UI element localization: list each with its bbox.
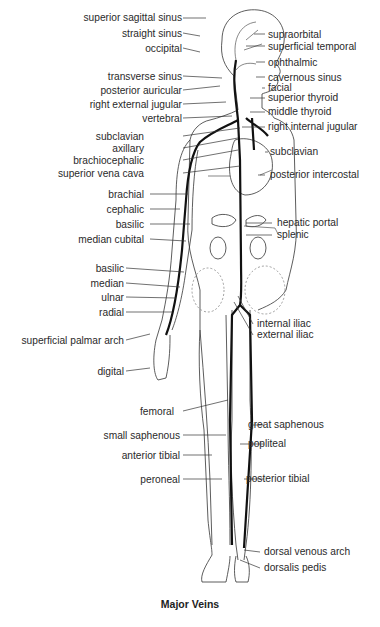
label-great-saphenous: great saphenous [248,419,324,430]
label-ulnar: ulnar [101,292,124,303]
label-cephalic: cephalic [107,204,144,215]
label-straight-sinus: straight sinus [122,28,182,39]
label-splenic: splenic [277,229,309,240]
label-basilic-lower: basilic [96,263,124,274]
label-median: median [91,278,124,289]
label-posterior-intercostal: posterior intercostal [270,169,359,180]
label-vertebral: vertebral [142,113,182,124]
label-superior-thyroid: superior thyroid [268,92,338,103]
major-veins-diagram: superior sagittal sinus straight sinus o… [0,0,380,627]
label-occipital: occipital [145,43,182,54]
label-right-internal-jugular: right internal jugular [268,121,357,132]
label-superior-vena-cava: superior vena cava [58,168,144,179]
label-dorsalis-pedis: dorsalis pedis [264,562,326,573]
label-median-cubital: median cubital [78,234,144,245]
label-right-external-jugular: right external jugular [90,99,182,110]
label-basilic-upper: basilic [116,219,144,230]
label-brachiocephalic: brachiocephalic [73,155,144,166]
label-small-saphenous: small saphenous [104,430,180,441]
label-subclavian-left: subclavian [96,131,144,142]
label-digital: digital [97,366,124,377]
label-axillary: axillary [112,143,144,154]
label-dorsal-venous-arch: dorsal venous arch [264,546,350,557]
label-middle-thyroid: middle thyroid [268,106,331,117]
label-superficial-temporal: superficial temporal [268,41,356,52]
label-posterior-auricular: posterior auricular [100,85,182,96]
label-popliteal: popliteal [248,438,286,449]
label-transverse-sinus: transverse sinus [108,71,182,82]
label-superficial-palmar-arch: superficial palmar arch [22,335,124,346]
label-femoral: femoral [140,406,174,417]
label-superior-sagittal-sinus: superior sagittal sinus [83,12,182,23]
label-subclavian-right: subclavian [270,146,318,157]
label-supraorbital: supraorbital [268,29,321,40]
label-posterior-tibial: posterior tibial [246,473,309,484]
label-hepatic-portal: hepatic portal [277,217,338,228]
label-external-iliac: external iliac [257,329,314,340]
label-radial: radial [99,307,124,318]
label-peroneal: peroneal [140,474,180,485]
label-anterior-tibial: anterior tibial [122,450,180,461]
label-ophthalmic: ophthalmic [268,57,317,68]
label-internal-iliac: internal iliac [257,318,311,329]
figure-caption: Major Veins [0,598,380,610]
label-brachial: brachial [108,189,144,200]
